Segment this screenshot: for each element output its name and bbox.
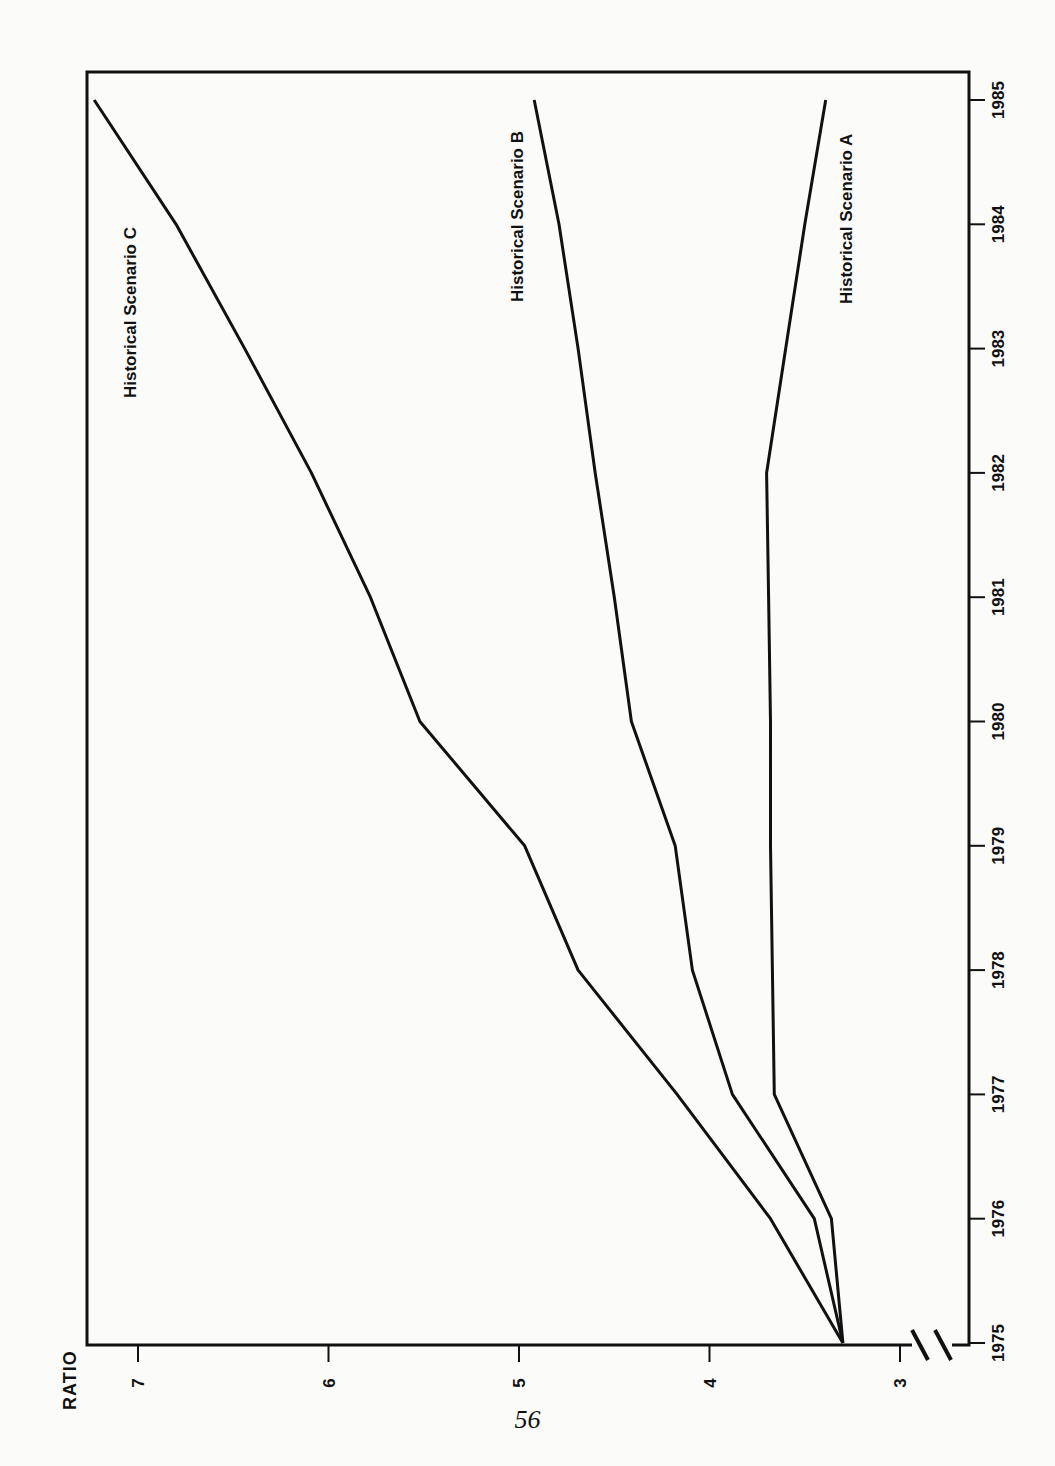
series-lines bbox=[94, 100, 843, 1343]
ratio-tick-label: 5 bbox=[510, 1378, 529, 1387]
year-tick-label: 1977 bbox=[989, 1075, 1008, 1113]
year-axis: 1975197619771978197919801981198219831984… bbox=[969, 81, 1008, 1362]
ratio-tick-label: 6 bbox=[320, 1378, 339, 1387]
ratio-axis-title: RATIO bbox=[60, 1350, 80, 1410]
series-line-c bbox=[94, 100, 843, 1343]
year-tick-label: 1978 bbox=[989, 951, 1008, 989]
ratio-tick-label: 7 bbox=[129, 1378, 148, 1387]
ratio-tick-label: 4 bbox=[701, 1378, 720, 1388]
label-scenario-c: Historical Scenario C bbox=[121, 227, 140, 398]
year-tick-label: 1982 bbox=[989, 454, 1008, 492]
year-tick-label: 1985 bbox=[989, 81, 1008, 119]
year-tick-label: 1979 bbox=[989, 827, 1008, 865]
year-tick-label: 1976 bbox=[989, 1200, 1008, 1238]
year-tick-label: 1981 bbox=[989, 578, 1008, 616]
year-tick-label: 1983 bbox=[989, 330, 1008, 368]
label-scenario-b: Historical Scenario B bbox=[508, 131, 527, 302]
year-tick-label: 1975 bbox=[989, 1324, 1008, 1362]
axis-break-mark bbox=[912, 1330, 952, 1360]
series-line-a bbox=[767, 100, 843, 1343]
page-number: 56 bbox=[0, 1405, 1055, 1435]
line-chart: 34567 1975197619771978197919801981198219… bbox=[0, 0, 1055, 1466]
ratio-tick-label: 3 bbox=[891, 1378, 910, 1387]
year-tick-label: 1980 bbox=[989, 703, 1008, 741]
label-scenario-a: Historical Scenario A bbox=[837, 134, 856, 304]
ratio-axis: 34567 bbox=[129, 1345, 910, 1388]
year-tick-label: 1984 bbox=[989, 205, 1008, 243]
